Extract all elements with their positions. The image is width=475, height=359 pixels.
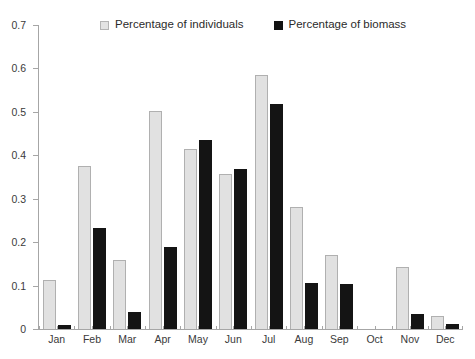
x-tick-mark — [39, 326, 40, 330]
x-tick-cell-feb — [74, 326, 109, 331]
bar-sep-individuals — [325, 255, 338, 329]
bar-nov-individuals — [396, 267, 409, 329]
y-tick-label: 0.6 — [11, 62, 26, 74]
bar-group-jun — [216, 25, 251, 329]
y-tick-mark: 0 — [33, 329, 38, 330]
bar-jun-biomass — [234, 169, 247, 329]
x-tick-mark-minor — [92, 326, 93, 329]
bar-group-jan — [39, 25, 74, 329]
x-tick-cell-nov — [392, 326, 427, 331]
bar-group-feb — [74, 25, 109, 329]
bar-sep-biomass — [340, 284, 353, 329]
bar-jun-individuals — [219, 174, 232, 329]
bar-chart: Percentage of individuals Percentage of … — [0, 0, 475, 359]
bar-jul-individuals — [255, 75, 268, 329]
x-tick-mark — [286, 326, 287, 330]
y-tick-mark: 0.3 — [33, 199, 38, 200]
x-tick-mark-minor — [339, 326, 340, 329]
bar-aug-individuals — [290, 207, 303, 329]
bar-group-nov — [392, 25, 427, 329]
x-tick-mark-minor — [127, 326, 128, 329]
bar-feb-biomass — [93, 228, 106, 329]
bar-group-jul — [251, 25, 286, 329]
x-tick-mark — [392, 326, 393, 330]
x-tick-cell-may — [180, 326, 215, 331]
bars-layer — [39, 25, 463, 329]
bar-apr-biomass — [164, 247, 177, 329]
x-tick-mark-minor — [410, 326, 411, 329]
bar-feb-individuals — [78, 166, 91, 329]
bar-apr-individuals — [149, 111, 162, 329]
y-tick-mark: 0.7 — [33, 25, 38, 26]
x-tick-mark — [180, 326, 181, 330]
y-tick-label: 0.2 — [11, 236, 26, 248]
plot-area: 0.70.60.50.40.30.20.10 — [38, 25, 463, 330]
x-tick-mark — [322, 326, 323, 330]
y-tick-label: 0 — [20, 323, 26, 335]
x-tick-mark-minor — [163, 326, 164, 329]
y-tick-mark: 0.5 — [33, 112, 38, 113]
x-tick-cell-dec — [428, 326, 463, 331]
x-tick-mark — [251, 326, 252, 330]
y-tick-label: 0.7 — [11, 19, 26, 31]
x-tick-cell-jun — [216, 326, 251, 331]
x-tick-label-jul: Jul — [251, 333, 286, 345]
x-tick-mark-minor — [57, 326, 58, 329]
y-tick-label: 0.5 — [11, 106, 26, 118]
bar-group-aug — [286, 25, 321, 329]
bar-group-dec — [428, 25, 463, 329]
x-tick-label-feb: Feb — [74, 333, 109, 345]
x-tick-mark — [74, 326, 75, 330]
x-tick-mark-minor — [198, 326, 199, 329]
x-tick-mark-minor — [375, 326, 376, 329]
bar-group-may — [180, 25, 215, 329]
x-tick-label-oct: Oct — [357, 333, 392, 345]
x-tick-label-sep: Sep — [322, 333, 357, 345]
x-tick-mark — [357, 326, 358, 330]
x-tick-mark — [216, 326, 217, 330]
x-tick-mark-minor — [445, 326, 446, 329]
y-tick-mark: 0.4 — [33, 155, 38, 156]
x-tick-label-jan: Jan — [39, 333, 74, 345]
y-tick-mark: 0.6 — [33, 68, 38, 69]
x-tick-mark-minor — [304, 326, 305, 329]
bar-group-mar — [110, 25, 145, 329]
x-tick-cell-oct — [357, 326, 392, 331]
bar-may-biomass — [199, 140, 212, 329]
x-axis-ticks — [39, 326, 463, 331]
y-tick-mark: 0.2 — [33, 242, 38, 243]
bar-group-oct — [357, 25, 392, 329]
x-tick-cell-jul — [251, 326, 286, 331]
bar-jul-biomass — [270, 104, 283, 329]
x-tick-label-apr: Apr — [145, 333, 180, 345]
x-axis-labels: JanFebMarAprMayJunJulAugSepOctNovDec — [39, 333, 463, 345]
x-tick-cell-aug — [286, 326, 321, 331]
y-tick-mark: 0.1 — [33, 286, 38, 287]
x-tick-mark-minor — [233, 326, 234, 329]
y-tick-label: 0.1 — [11, 280, 26, 292]
bar-group-sep — [322, 25, 357, 329]
y-tick-label: 0.4 — [11, 149, 26, 161]
bar-group-apr — [145, 25, 180, 329]
x-tick-label-mar: Mar — [110, 333, 145, 345]
x-tick-label-nov: Nov — [392, 333, 427, 345]
bar-mar-individuals — [113, 260, 126, 329]
x-tick-label-aug: Aug — [286, 333, 321, 345]
y-tick-label: 0.3 — [11, 193, 26, 205]
bar-jan-individuals — [43, 280, 56, 329]
bar-aug-biomass — [305, 283, 318, 329]
x-tick-mark — [462, 326, 463, 330]
x-tick-cell-mar — [110, 326, 145, 331]
x-tick-label-dec: Dec — [428, 333, 463, 345]
x-tick-mark-minor — [269, 326, 270, 329]
x-tick-label-may: May — [180, 333, 215, 345]
x-tick-mark — [428, 326, 429, 330]
x-tick-cell-apr — [145, 326, 180, 331]
bar-may-individuals — [184, 149, 197, 329]
x-tick-cell-sep — [322, 326, 357, 331]
x-tick-mark — [110, 326, 111, 330]
x-tick-label-jun: Jun — [216, 333, 251, 345]
x-tick-mark — [145, 326, 146, 330]
x-tick-cell-jan — [39, 326, 74, 331]
